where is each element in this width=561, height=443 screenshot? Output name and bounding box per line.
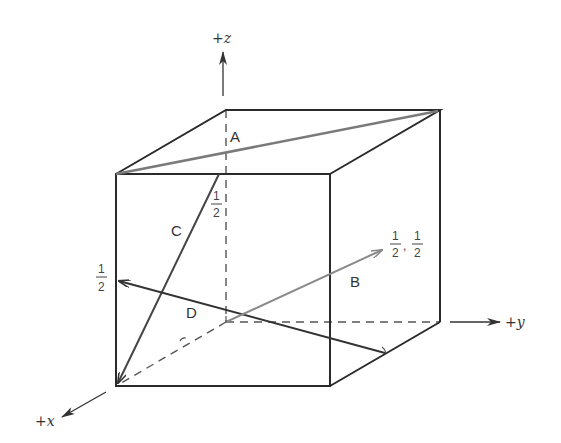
svg-text:2: 2 <box>98 280 105 294</box>
svg-text:1: 1 <box>213 189 220 203</box>
svg-text:2: 2 <box>392 246 399 260</box>
vector-c-label: C <box>171 222 182 239</box>
svg-text:1: 1 <box>414 229 421 243</box>
vector-a-label: A <box>230 128 240 145</box>
fraction-d-left: 1 2 <box>96 262 107 294</box>
svg-text:1: 1 <box>392 229 399 243</box>
z-axis-label: +z <box>212 30 232 46</box>
x-axis-label: +x <box>35 413 55 429</box>
x-axis <box>62 392 106 417</box>
vector-d-label: D <box>186 304 197 321</box>
svg-text:,: , <box>403 239 406 253</box>
svg-text:1: 1 <box>98 262 105 276</box>
svg-text:2: 2 <box>213 206 220 220</box>
vector-d <box>119 281 385 353</box>
y-axis-label: +y <box>505 314 526 330</box>
fraction-c-top: 1 2 <box>211 189 222 220</box>
svg-text:2: 2 <box>414 246 421 260</box>
cube-diagram: +z +y +x A B C D 1 2 1 2 1 2 , 1 2 <box>0 0 561 443</box>
fraction-b-end: 1 2 , 1 2 <box>390 229 423 260</box>
vector-a <box>116 111 438 174</box>
vector-b-label: B <box>350 273 360 290</box>
vector-c <box>118 174 219 383</box>
